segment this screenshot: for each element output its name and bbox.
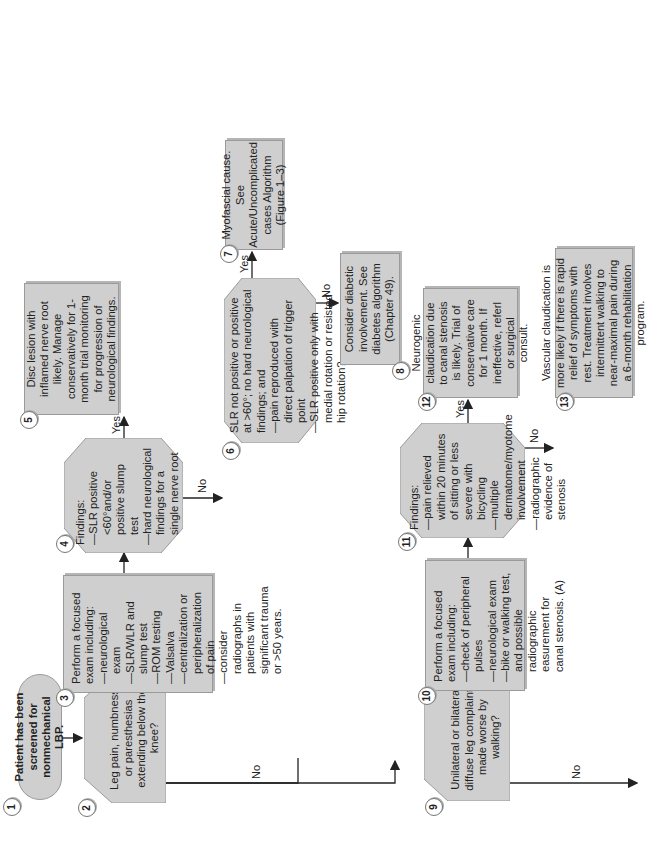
node-10-number-badge: 10 [418, 687, 436, 705]
node-12-number-badge: 12 [418, 393, 436, 411]
node-10-item: —neurological exam [486, 569, 499, 682]
edge-label-6-7: Yes [238, 255, 250, 273]
edge-label-9-offpage: No [570, 765, 582, 779]
node-7-myofascial: Myofascial cause. See Acute/Uncomplicate… [225, 140, 283, 250]
node-13-number-badge: 13 [556, 393, 574, 411]
node-5-text: Disc lesion with inflamed nerve root lik… [25, 292, 119, 406]
node-8-number-badge: 8 [392, 362, 410, 380]
node-9-decision: Unilateral or bilateral, diffuse leg com… [424, 673, 510, 801]
node-4-item: —hard neurological findings for a single… [141, 446, 181, 545]
node-11-number-badge: 11 [398, 533, 416, 551]
node-3-item: —ROM testing [150, 584, 163, 684]
node-9-text: Unilateral or bilateral, diffuse leg com… [427, 673, 507, 801]
node-3-heading: Perform a focused exam including: [70, 584, 97, 684]
node-4-item: —SLR positive <60°and/or positive slump … [87, 446, 141, 545]
node-1-number-badge: 1 [3, 798, 21, 816]
node-13-text: Vascular claudication is more likely if … [540, 257, 647, 389]
flowchart-canvas: Yes No Yes No Yes No Yes No Yes No Patie… [0, 0, 652, 843]
node-4-decision: Findings: —SLR positive <60°and/or posit… [64, 438, 183, 553]
node-5-disc-lesion: Disc lesion with inflamed nerve root lik… [24, 283, 119, 415]
edge-label-4-5: Yes [110, 416, 122, 434]
node-1-start: Patient has been screened for nonmechani… [18, 674, 62, 800]
edge-label-11-12: Yes [454, 400, 466, 418]
node-3-item: —centralization or peripheralization of … [177, 584, 217, 684]
node-8-text: Consider diabetic involvement. See diabe… [343, 262, 397, 356]
node-11-item: —multiple dermatome/myotome involvement [488, 431, 528, 530]
node-10-heading: Perform a focused exam including: [432, 569, 459, 682]
node-12-neurogenic: Neurogenic claudication due to canal ste… [423, 288, 518, 398]
node-3-item: —neurological exam [97, 584, 124, 684]
node-7-text: Myofascial cause. See Acute/Uncomplicate… [220, 142, 287, 248]
node-10-item: —bike or walking test, and possible radi… [499, 569, 566, 682]
node-5-number-badge: 5 [20, 411, 38, 429]
node-7-number-badge: 7 [220, 245, 238, 263]
node-6-number-badge: 6 [222, 442, 240, 460]
edge-label-4-6: No [196, 479, 208, 493]
node-6-decision: SLR not positive or positive at >60°; no… [224, 278, 316, 443]
node-8-diabetic: Consider diabetic involvement. See diabe… [340, 253, 400, 365]
node-2-number-badge: 2 [78, 799, 96, 817]
edge-label-2-9: No [250, 765, 262, 779]
node-9-number-badge: 9 [425, 798, 443, 816]
node-3-item: —Valsalva [164, 584, 177, 684]
node-12-text: Neurogenic claudication due to canal ste… [410, 297, 531, 389]
node-4-number-badge: 4 [56, 535, 74, 553]
node-3-item: —consider radiographs in patients with s… [217, 584, 284, 684]
node-11-decision: Findings: —pain relieved within 20 minut… [400, 423, 525, 538]
node-10-item: —check of peripheral pulses [459, 569, 486, 682]
node-11-heading: Findings: [408, 431, 421, 530]
node-10-focused-exam: Perform a focused exam including: —check… [425, 560, 525, 691]
node-3-item: —SLR/WLR and slump test [124, 584, 151, 684]
node-3-focused-exam: Perform a focused exam including: —neuro… [63, 575, 213, 693]
node-3-number-badge: 3 [56, 689, 74, 707]
node-6-item: SLR not positive or positive at >60°; no… [228, 288, 268, 433]
node-11-item: —pain relieved within 20 minutes of sitt… [421, 431, 488, 530]
node-13-vascular: Vascular claudication is more likely if … [555, 248, 633, 398]
node-4-heading: Findings: [74, 446, 87, 545]
node-11-item: —radiographic evidence of stenosis [529, 431, 569, 530]
node-6-item: —pain reproduced with direct palpation o… [268, 288, 308, 433]
